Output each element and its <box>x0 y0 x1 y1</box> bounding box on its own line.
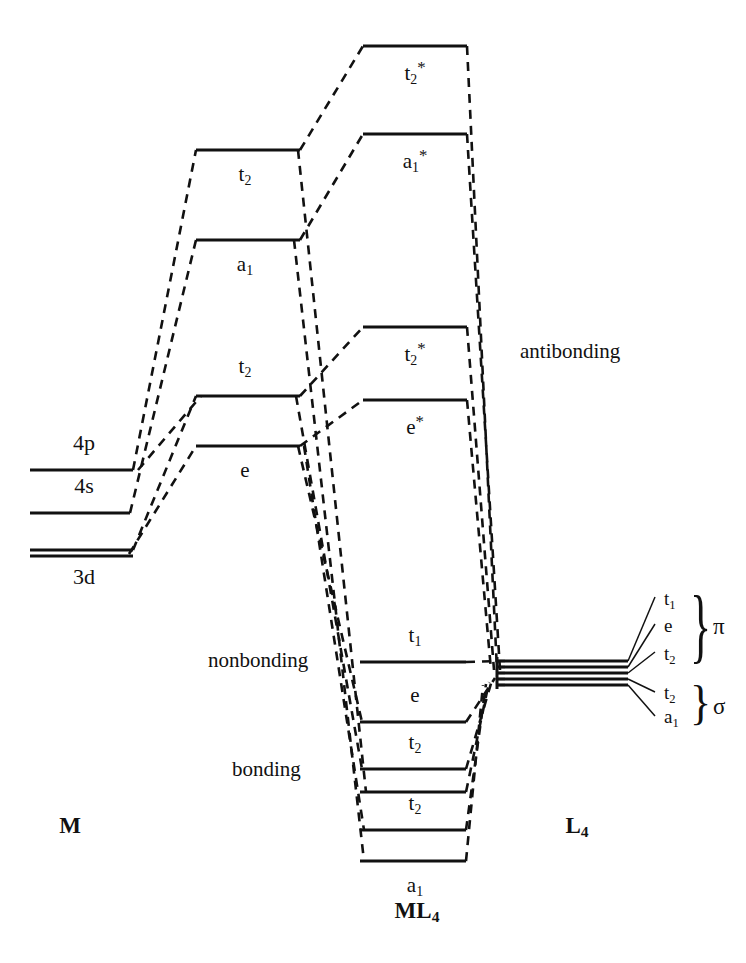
region-label-bonding: bonding <box>232 759 301 780</box>
axis-label-complex-sub: 4 <box>432 908 440 925</box>
metal-level-label-4p: 4p <box>73 432 95 454</box>
connector-t2-t2star <box>300 46 363 150</box>
connector-4s-a1 <box>130 240 196 513</box>
symmetry-symbol-pi: π <box>713 615 725 638</box>
hybrid-level-label: t2 <box>239 356 252 380</box>
ligand-fan-label: a1 <box>664 707 679 729</box>
ligand-fan-label: t2 <box>664 683 676 705</box>
hybrid-level-label: t2 <box>239 164 252 188</box>
mo-diagram-figure: 4p4s3dt2a1t2et2*a1*t2*e*t1et2t2a1t1et2t2… <box>0 0 746 963</box>
connector-bonding-t2b-ligand <box>466 682 489 792</box>
region-label-nonbonding: nonbonding <box>208 650 308 671</box>
axis-label-metal: M <box>59 814 81 837</box>
ligand-fan-leader <box>628 597 655 661</box>
hybrid-level-label: e <box>240 460 249 481</box>
hybrid-level-label: a1 <box>237 254 253 278</box>
mo-antibonding-level-label: t2* <box>404 60 425 87</box>
symmetry-brace-sigma: } <box>690 678 711 730</box>
connector-3d-e <box>129 446 196 554</box>
mo-antibonding-level-label: e* <box>406 414 424 438</box>
ligand-fan-leader-lines <box>628 597 655 716</box>
mo-nonbonding-level-label: t1 <box>409 625 422 649</box>
axis-label-ligand: L4 <box>565 814 588 840</box>
ligand-fan-label: t2 <box>664 644 676 666</box>
ligand-fan-leader <box>628 652 655 673</box>
ligand-fan-label: e <box>664 616 672 635</box>
axis-label-ligand-sub: 4 <box>581 823 589 840</box>
mo-antibonding-level-label: t2* <box>404 341 425 368</box>
mo-bonding-level-label: t2 <box>409 793 422 817</box>
region-label-antibonding: antibonding <box>520 341 620 362</box>
connector-bonding-a1-ligand <box>466 685 483 861</box>
mo-bonding-level-label: a1 <box>407 875 423 899</box>
mo-bonding-level-label: t2 <box>409 732 422 756</box>
symmetry-symbol-sigma: σ <box>713 695 725 718</box>
axis-label-complex-text: ML <box>395 898 432 923</box>
correlation-connector-lines <box>129 46 500 861</box>
metal-level-label-3d: 3d <box>73 566 95 588</box>
mo-antibonding-level-label: a1* <box>403 148 428 175</box>
connector-estar-ligand <box>467 400 491 670</box>
axis-label-ligand-text: L <box>565 813 580 838</box>
mo-bonding-level-label: e <box>410 685 419 706</box>
connector-4p-t2 <box>133 150 196 470</box>
connector-e-bonding-e <box>298 446 362 722</box>
metal-level-label-4s: 4s <box>74 475 94 497</box>
diagram-canvas <box>0 0 746 963</box>
connector-a1-a1star <box>300 134 363 240</box>
ligand-fan-label: t1 <box>664 589 676 611</box>
ligand-group-orbital-stack <box>497 657 628 689</box>
axis-label-complex: ML4 <box>395 899 440 925</box>
connector-t1-nonbonding-ligand <box>466 661 497 662</box>
connector-e-estar <box>300 400 363 446</box>
